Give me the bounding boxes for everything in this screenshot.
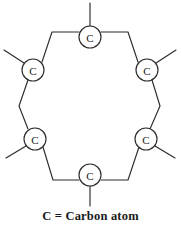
carbon-atom-label: C [31,134,38,146]
carbon-atom-upper-right: C [136,59,158,81]
ring-bond-upperright-lowerright [150,80,160,129]
carbon-atom-label: C [29,65,36,77]
substituent-bond-lowerleft-downleft [6,146,26,158]
carbon-atom-label: C [143,65,150,77]
carbon-atom-label: C [142,134,149,146]
carbon-atom-top: C [79,26,101,48]
carbon-atom-lower-right: C [135,128,157,150]
legend-text: C = Carbon atom [42,209,139,224]
atom-group: C C C C C C [22,26,158,186]
ring-bond-upperleft-top [42,32,79,62]
carbon-ring-diagram: C C C C C C [0,0,181,227]
substituent-bond-lowerright-downright [155,146,175,158]
carbon-atom-label: C [86,170,93,182]
carbon-atom-upper-left: C [22,59,44,81]
carbon-atom-label: C [86,32,93,44]
substituent-bond-upperleft-upleft [4,50,24,63]
ring-bond-lowerright-bottom [101,147,139,180]
substituent-bond-upperright-upright [156,50,176,63]
ring-bond-lowerleft-upperleft [19,80,28,129]
carbon-atom-lower-left: C [24,128,46,150]
legend: C = Carbon atom [0,206,181,227]
ring-bond-top-upperright [101,32,138,62]
carbon-ring-figure: C C C C C C C = [0,0,181,227]
ring-bond-bottom-lowerleft [43,147,79,180]
carbon-atom-bottom: C [79,164,101,186]
ring-bond-group [19,32,160,180]
